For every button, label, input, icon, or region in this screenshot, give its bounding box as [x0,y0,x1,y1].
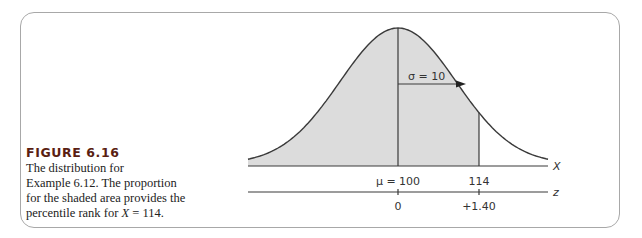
x-axis-label: X [552,160,561,173]
normal-distribution-diagram: σ = 10 X μ = 100 114 z 0 +1.40 [0,0,642,238]
arrowhead-icon [456,81,466,88]
x-tick-114: 114 [469,175,490,188]
z-axis-label: z [552,186,559,199]
sigma-label: σ = 10 [408,70,445,83]
z-tick-0: 0 [395,200,402,213]
z-tick-140: +1.40 [462,200,496,213]
x-tick-mean: μ = 100 [376,175,420,188]
